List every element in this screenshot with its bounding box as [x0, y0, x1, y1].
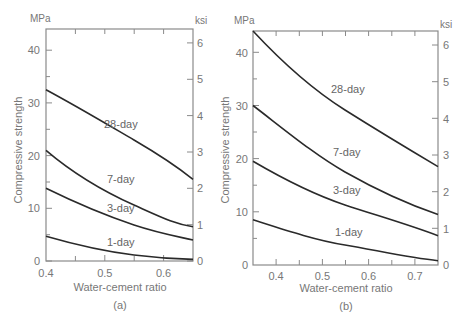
x-label-a-0.6: 0.6	[156, 267, 171, 279]
y-axis-title-b: Compressive strength	[219, 97, 231, 204]
curve-7-day-a	[46, 150, 193, 226]
label-1-day-a: 1-day	[107, 236, 135, 248]
x-label-b-0.6: 0.6	[361, 270, 376, 282]
label-7-day-b: 7-day	[333, 146, 361, 158]
y-ticks-left-b	[253, 52, 259, 238]
ksi-label-b-4: 4	[443, 113, 449, 125]
ksi-label-a-1: 1	[197, 219, 203, 231]
ksi-label-a-5: 5	[197, 73, 203, 85]
ksi-label-a-0: 0	[197, 255, 203, 267]
ksi-label-b-5: 5	[443, 76, 449, 88]
ksi-label-b-0: 0	[443, 259, 449, 271]
y-label-a-40: 40	[28, 44, 40, 56]
plot-frame-a	[46, 29, 193, 261]
y-ticks-right-a	[187, 43, 193, 261]
x-axis-title-a: Water-cement ratio	[73, 281, 166, 293]
label-3-day-b: 3-day	[333, 184, 361, 196]
y-label-b-40: 40	[236, 47, 248, 59]
panel-a: MPa ksi 0 10 20 30 40 0 1 2 3 4 5 6 0.4 …	[12, 13, 207, 311]
ksi-label-a-6: 6	[197, 37, 203, 49]
x-label-a-0.4: 0.4	[38, 267, 53, 279]
y-label-b-10: 10	[236, 206, 248, 218]
y-label-a-30: 30	[28, 97, 40, 109]
ksi-label-a-2: 2	[197, 182, 203, 194]
x-label-b-0.4: 0.4	[268, 270, 283, 282]
ksi-label-a-3: 3	[197, 146, 203, 158]
y-ticks-left-a	[46, 50, 52, 261]
unit-mpa-b: MPa	[234, 15, 255, 26]
curve-28-day-a	[46, 90, 193, 180]
x-label-b-0.5: 0.5	[315, 270, 330, 282]
unit-ksi-b: ksi	[440, 19, 452, 30]
curve-7-day-b	[253, 106, 438, 215]
y-axis-title-a: Compressive strength	[12, 97, 24, 204]
label-28-day-a: 28-day	[104, 118, 138, 130]
label-1-day-b: 1-day	[335, 226, 363, 238]
label-28-day-b: 28-day	[331, 83, 365, 95]
y-label-b-30: 30	[236, 100, 248, 112]
x-label-b-0.7: 0.7	[407, 270, 422, 282]
ksi-label-b-6: 6	[443, 39, 449, 51]
x-label-a-0.5: 0.5	[97, 267, 112, 279]
ksi-label-b-3: 3	[443, 149, 449, 161]
y-label-a-0: 0	[34, 255, 40, 267]
y-label-a-20: 20	[28, 150, 40, 162]
y-ticks-right-b	[432, 45, 438, 228]
unit-ksi-a: ksi	[195, 15, 207, 26]
unit-mpa-a: MPa	[30, 13, 51, 24]
y-label-a-10: 10	[28, 202, 40, 214]
label-7-day-a: 7-day	[107, 173, 135, 185]
figure: MPa ksi 0 10 20 30 40 0 1 2 3 4 5 6 0.4 …	[0, 0, 465, 325]
y-label-b-0: 0	[242, 259, 248, 271]
curve-3-day-a	[46, 188, 193, 240]
ksi-label-b-2: 2	[443, 186, 449, 198]
x-ticks-a	[75, 29, 163, 261]
x-axis-title-b: Water-cement ratio	[299, 282, 392, 294]
ksi-label-b-1: 1	[443, 223, 449, 235]
panel-b: MPa ksi 0 10 20 30 40 0 1 2 3 4 5 6 0.4 …	[219, 15, 452, 312]
label-3-day-a: 3-day	[107, 202, 135, 214]
caption-b: (b)	[339, 300, 352, 312]
y-label-b-20: 20	[236, 153, 248, 165]
ksi-label-a-4: 4	[197, 110, 203, 122]
caption-a: (a)	[113, 299, 126, 311]
